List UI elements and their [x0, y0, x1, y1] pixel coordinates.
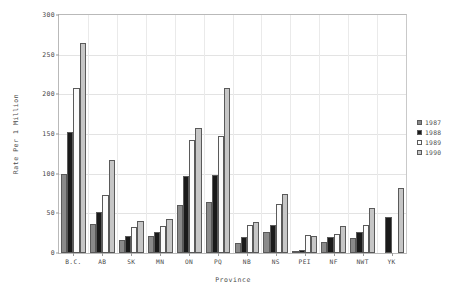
y-axis-tick-label: 100	[15, 170, 59, 178]
bar-on-1990	[195, 128, 201, 253]
x-axis-tick-label: NF	[330, 258, 338, 265]
bar-group	[61, 15, 86, 253]
bar-group	[206, 15, 231, 253]
bar-yk-1990	[398, 188, 404, 253]
x-axis-tick-label: NB	[243, 258, 251, 265]
group-separator	[175, 15, 176, 253]
legend-item: 1990	[417, 148, 465, 157]
group-separator	[204, 15, 205, 253]
bar-pq-1990	[224, 88, 230, 253]
y-axis-tick-mark	[56, 213, 59, 214]
x-axis-tick-label: ON	[185, 258, 193, 265]
bar-group	[263, 15, 288, 253]
bar-group	[177, 15, 202, 253]
group-separator	[377, 15, 378, 253]
y-axis-tick-mark	[56, 54, 59, 55]
bar-nf-1990	[340, 226, 346, 253]
bar-bc-1990	[80, 43, 86, 253]
x-axis-tick-label: PEI	[299, 258, 311, 265]
x-axis-tick-mark	[276, 253, 277, 256]
bar-chart: Rate Per 1 Million 050100150200250300 Pr…	[0, 0, 467, 296]
x-axis-tick-label: NWT	[356, 258, 368, 265]
y-axis-tick-mark	[56, 173, 59, 174]
x-axis-tick-mark	[218, 253, 219, 256]
legend-swatch-icon	[417, 150, 422, 155]
legend-item: 1987	[417, 118, 465, 127]
x-axis-tick-mark	[305, 253, 306, 256]
y-axis-tick-label: 200	[15, 90, 59, 98]
x-axis-tick-mark	[73, 253, 74, 256]
x-axis-tick-mark	[247, 253, 248, 256]
x-axis-tick-mark	[392, 253, 393, 256]
group-separator	[290, 15, 291, 253]
legend-item: 1989	[417, 138, 465, 147]
y-axis-tick-mark	[56, 134, 59, 135]
bar-nwt-1990	[369, 208, 375, 253]
bar-group	[379, 15, 404, 253]
bar-sk-1990	[137, 221, 143, 253]
y-axis-tick-label: 300	[15, 11, 59, 19]
bar-ab-1990	[109, 160, 115, 253]
legend-swatch-icon	[417, 130, 422, 135]
bar-pei-1990	[311, 236, 317, 253]
y-axis-tick-mark	[56, 253, 59, 254]
legend-label: 1987	[425, 119, 441, 126]
x-axis-tick-label: YK	[387, 258, 395, 265]
bar-group	[148, 15, 173, 253]
x-axis-tick-mark	[363, 253, 364, 256]
y-axis-tick-label: 0	[15, 249, 59, 257]
x-axis-tick-label: SK	[127, 258, 135, 265]
x-axis-tick-label: MN	[156, 258, 164, 265]
bar-group	[321, 15, 346, 253]
y-axis-tick-mark	[56, 94, 59, 95]
y-axis-tick-label: 250	[15, 51, 59, 59]
chart-legend: 1987198819891990	[417, 118, 465, 158]
legend-label: 1990	[425, 149, 441, 156]
group-separator	[117, 15, 118, 253]
group-separator	[348, 15, 349, 253]
legend-label: 1989	[425, 139, 441, 146]
legend-swatch-icon	[417, 120, 422, 125]
bar-yk-1988	[385, 217, 391, 253]
x-axis-tick-mark	[334, 253, 335, 256]
y-axis-tick-mark	[56, 15, 59, 16]
bar-group	[235, 15, 260, 253]
group-separator	[319, 15, 320, 253]
group-separator	[88, 15, 89, 253]
x-axis-tick-mark	[160, 253, 161, 256]
x-axis-tick-label: NS	[272, 258, 280, 265]
bar-nb-1990	[253, 222, 259, 253]
x-axis-tick-label: PQ	[214, 258, 222, 265]
x-axis-tick-mark	[189, 253, 190, 256]
bar-group	[90, 15, 115, 253]
bar-ns-1990	[282, 194, 288, 254]
x-axis-tick-mark	[102, 253, 103, 256]
x-axis-title: Province	[58, 276, 408, 284]
group-separator	[261, 15, 262, 253]
plot-area: 050100150200250300	[58, 14, 407, 254]
bar-group	[119, 15, 144, 253]
group-separator	[146, 15, 147, 253]
x-axis-tick-mark	[131, 253, 132, 256]
bar-group	[292, 15, 317, 253]
group-separator	[233, 15, 234, 253]
x-axis-tick-label: AB	[98, 258, 106, 265]
x-axis-tick-label: B.C.	[65, 258, 82, 265]
y-axis-tick-label: 150	[15, 130, 59, 138]
bar-mn-1990	[166, 219, 172, 253]
legend-swatch-icon	[417, 140, 422, 145]
legend-label: 1988	[425, 129, 441, 136]
legend-item: 1988	[417, 128, 465, 137]
bar-group	[350, 15, 375, 253]
plot-inner: 050100150200250300	[59, 15, 406, 253]
y-axis-tick-label: 50	[15, 209, 59, 217]
